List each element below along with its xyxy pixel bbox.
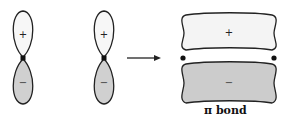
orbital-2-nucleus [102, 56, 107, 61]
orbital-2-minus-sign: − [100, 77, 108, 88]
orbital-2-plus-sign: + [100, 29, 108, 40]
orbital-1-minus-sign: − [19, 77, 27, 88]
pi-bond: + − [180, 13, 276, 103]
pi-bond-label: π bond [204, 104, 247, 117]
pi-bond-nucleus-right [271, 55, 276, 60]
orbital-1-plus-sign: + [19, 29, 27, 40]
reaction-arrow-icon [127, 55, 161, 61]
pi-bond-minus-sign: − [225, 77, 233, 88]
pi-bond-diagram: + − + − + − π bond [0, 0, 289, 120]
p-orbital-2: + − [94, 11, 114, 104]
pi-bond-nucleus-left [180, 55, 185, 60]
diagram-canvas: + − + − + − [0, 0, 289, 120]
pi-bond-plus-sign: + [225, 27, 233, 38]
p-orbital-1: + − [13, 11, 33, 104]
orbital-1-nucleus [21, 56, 26, 61]
